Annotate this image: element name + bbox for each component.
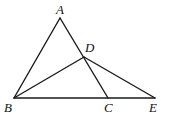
label-point-C: C [104,100,113,115]
geometry-figure: ABCDE [0,0,169,117]
segments [14,18,155,98]
triangle-diagram: ABCDE [0,0,169,117]
segment-AC [60,18,108,98]
segment-AB [14,18,60,98]
segment-BD [14,57,84,98]
label-point-B: B [4,100,12,115]
segment-DE [84,57,155,98]
label-point-D: D [84,40,95,55]
label-point-A: A [55,2,64,17]
label-point-E: E [148,100,157,115]
